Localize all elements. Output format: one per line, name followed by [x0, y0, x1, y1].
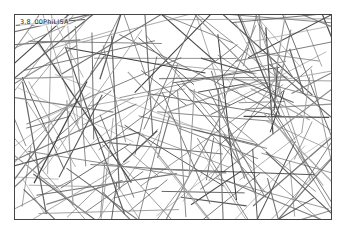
fiber-network	[15, 15, 332, 220]
sample-label: 3.8_00PhiLISA	[20, 18, 69, 26]
micrograph-frame: 3.8_00PhiLISA	[14, 14, 332, 220]
